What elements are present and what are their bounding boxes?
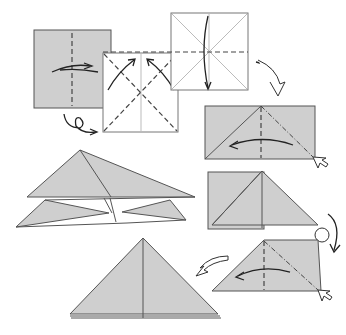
step-6-repeat-squash — [196, 240, 332, 301]
next-step-arrow — [196, 256, 228, 276]
origami-diagram — [0, 0, 346, 335]
step-4-rectangle — [205, 106, 328, 168]
turn-over-arrow — [328, 214, 337, 250]
diagram-canvas — [0, 0, 346, 335]
step-7-triangle-base — [70, 238, 221, 318]
push-arrow — [318, 290, 332, 301]
step-1-colored-square — [34, 30, 111, 135]
step-2-white-square — [103, 53, 178, 132]
next-step-arrow — [258, 60, 285, 96]
push-arrow — [313, 157, 328, 168]
step-8-open-triangle — [16, 150, 195, 227]
